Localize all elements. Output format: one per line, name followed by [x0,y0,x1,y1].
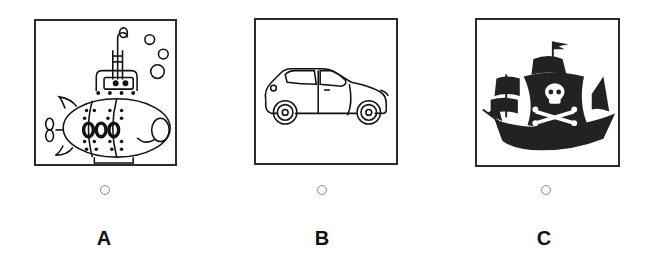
option-a-image[interactable] [34,19,177,166]
submarine-icon [36,21,175,164]
option-a-label: A [89,227,119,249]
option-b-image[interactable] [254,18,398,165]
option-b-radio[interactable] [317,185,327,195]
option-a-radio[interactable] [100,185,110,195]
car-icon [256,20,396,163]
option-b-label: B [307,227,337,249]
option-c-image[interactable] [475,18,620,167]
option-c-radio[interactable] [541,185,551,195]
pirate-ship-icon [477,20,618,165]
option-c-label: C [529,227,559,249]
